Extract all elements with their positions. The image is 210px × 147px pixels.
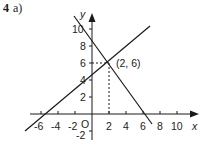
y-tick-label: 4 [80, 74, 86, 86]
y-tick-label: 6 [80, 57, 86, 69]
graph: y x O -6 -4 -2 2 4 6 8 10 -2 2 4 6 8 10 … [0, 0, 210, 147]
y-tick-label: 2 [80, 91, 86, 103]
x-tick-label: 8 [157, 120, 163, 132]
x-tick-label: -6 [34, 120, 43, 132]
x-axis-arrow-icon [190, 111, 199, 118]
line-y-equals-minus-2x-plus-10 [74, 16, 152, 124]
x-axis-label: x [191, 120, 198, 132]
x-tick-label: 2 [106, 120, 112, 132]
x-tick-label: 4 [123, 120, 129, 132]
y-axis-arrow-icon [89, 13, 96, 22]
y-axis-label: y [79, 8, 86, 20]
line-y-equals-x-plus-4 [25, 26, 150, 131]
intersection-label: (2, 6) [116, 57, 141, 69]
y-tick-label: 8 [80, 40, 86, 52]
y-tick-label: 10 [72, 23, 84, 35]
y-tick-label: -2 [76, 129, 85, 141]
x-tick-label: 6 [140, 120, 146, 132]
x-tick-label: -4 [51, 120, 60, 132]
x-tick-label: 10 [171, 120, 183, 132]
